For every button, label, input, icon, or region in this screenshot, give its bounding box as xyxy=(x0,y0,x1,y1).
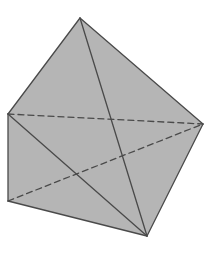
polyhedron-diagram xyxy=(0,0,223,255)
polyhedron-silhouette xyxy=(8,18,203,236)
